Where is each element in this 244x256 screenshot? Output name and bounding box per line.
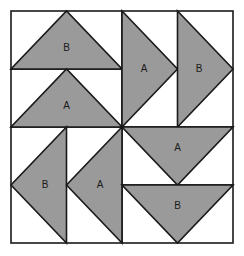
triangle-label-top-left-b: B (63, 42, 70, 53)
triangle-label-bottom-left-b: B (42, 179, 49, 190)
triangle-tiling-figure: BAABBAAB (0, 0, 244, 256)
triangle-label-top-right-b: B (196, 63, 203, 74)
triangle-label-top-right-a: A (141, 63, 148, 74)
triangle-label-bottom-left-a: A (97, 179, 104, 190)
triangles-group (11, 11, 233, 243)
figure-stage: BAABBAAB (0, 0, 244, 256)
triangle-label-bottom-right-a: A (174, 142, 181, 153)
triangle-label-top-left-a: A (63, 100, 70, 111)
triangle-label-bottom-right-b: B (174, 200, 181, 211)
